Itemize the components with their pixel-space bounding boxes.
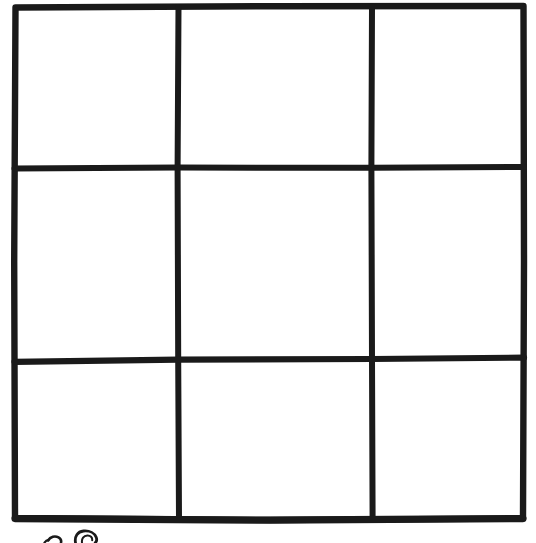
cell-row3-col2[interactable] — [182, 363, 369, 517]
grid-vertical-divider-2 — [371, 7, 372, 520]
handwriting-fragment — [42, 524, 122, 543]
handwriting-glyph-2-inner — [82, 536, 92, 543]
cell-row3-col1[interactable] — [19, 365, 175, 516]
page-canvas — [0, 0, 536, 543]
grid-bottom-rail-ink — [15, 519, 523, 521]
cell-row1-col1[interactable] — [19, 12, 175, 165]
grid-vertical-divider-1 — [178, 7, 179, 519]
cell-row1-col2[interactable] — [182, 11, 369, 165]
cell-row2-col2[interactable] — [182, 171, 369, 357]
cell-row1-col3[interactable] — [376, 10, 521, 165]
grid-horizontal-divider-1 — [15, 167, 525, 169]
cell-row2-col3[interactable] — [376, 171, 521, 355]
cell-row3-col3[interactable] — [376, 362, 521, 516]
handwriting-glyph-2 — [75, 531, 96, 543]
handwriting-strokes — [42, 524, 122, 543]
cell-row2-col1[interactable] — [19, 172, 175, 357]
handwriting-glyph-1 — [48, 537, 61, 543]
